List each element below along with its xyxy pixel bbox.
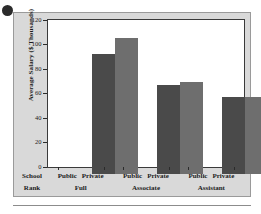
x-group-label-full: PublicPrivateFull [49,170,113,194]
x-sector-label-private: Private [212,170,234,182]
bar-private-associate [180,82,203,174]
x-sector-label-public: Public [188,170,207,182]
x-axis-title: School Rank [16,170,48,194]
x-rank-label: Full [49,182,113,194]
x-axis-labels: School Rank PublicPrivateFullPublicPriva… [14,170,252,198]
x-group-label-associate: PublicPrivateAssociate [114,170,178,194]
x-sector-label-private: Private [82,170,104,182]
bar-group [92,27,138,174]
bullet-dot [2,5,13,16]
y-axis-tick-label: 60 [35,90,42,97]
bar-private-full [115,38,138,174]
x-sector-label-public: Public [58,170,77,182]
x-rank-label: Assistant [179,182,243,194]
y-axis-tick-label: 40 [35,115,42,122]
x-group-sectors: PublicPrivate [49,170,113,182]
x-axis-title-line2: Rank [16,182,48,194]
bar-group [222,27,261,174]
y-axis-tick-label: 100 [32,41,42,48]
x-group-label-assistant: PublicPrivateAssistant [179,170,243,194]
bar-private-assistant [245,97,261,174]
chart-figure-panel: Average Salary ($ Thousands) 12010080604… [13,12,251,197]
y-axis-tick-label: 80 [35,66,42,73]
bars-layer [82,27,261,174]
plot-area [47,19,245,168]
y-axis-tick-label: 120 [32,17,42,24]
bar-public-assistant [222,97,245,174]
x-rank-label: Associate [114,182,178,194]
x-axis-title-line1: School [16,170,48,182]
x-sector-label-private: Private [147,170,169,182]
x-sector-label-public: Public [123,170,142,182]
bottom-rule [13,205,251,206]
x-group-sectors: PublicPrivate [114,170,178,182]
bar-public-associate [157,85,180,174]
y-axis-ticks: 120100806040200 [14,19,47,168]
bar-group [157,27,203,174]
x-group-sectors: PublicPrivate [179,170,243,182]
y-axis-tick-label: 20 [35,139,42,146]
bar-public-full [92,54,115,174]
